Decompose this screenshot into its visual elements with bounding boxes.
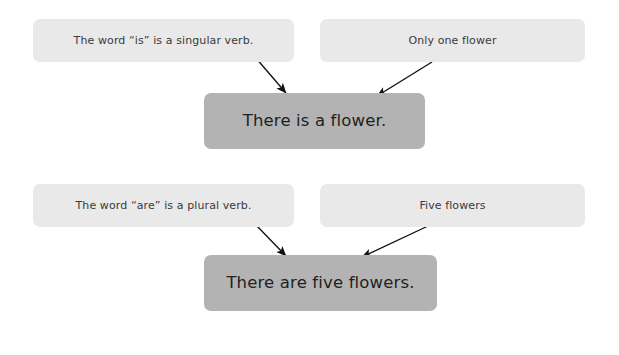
premise-box-plural-verb: The word “are” is a plural verb. xyxy=(33,184,294,227)
premise-text: Five flowers xyxy=(411,199,493,213)
diagram-canvas: The word “is” is a singular verb. Only o… xyxy=(0,0,619,355)
arrow-bottom-left xyxy=(255,224,286,256)
premise-text: The word “are” is a plural verb. xyxy=(68,199,260,213)
premise-text: The word “is” is a singular verb. xyxy=(66,34,262,48)
conclusion-text: There are five flowers. xyxy=(218,273,422,294)
premise-box-singular-verb: The word “is” is a singular verb. xyxy=(33,19,294,62)
arrow-bottom-right xyxy=(362,226,428,257)
premise-text: Only one flower xyxy=(400,34,504,48)
arrow-top-right xyxy=(377,62,432,96)
conclusion-box-singular: There is a flower. xyxy=(204,93,425,149)
conclusion-box-plural: There are five flowers. xyxy=(204,255,437,311)
conclusion-text: There is a flower. xyxy=(235,111,395,132)
premise-box-one-flower: Only one flower xyxy=(320,19,585,62)
premise-box-five-flowers: Five flowers xyxy=(320,184,585,227)
arrow-top-left xyxy=(255,57,286,93)
